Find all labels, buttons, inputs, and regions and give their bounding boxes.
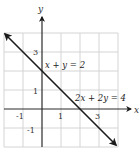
tick-y-1: 1 (33, 87, 38, 96)
x-axis-label: x (134, 105, 139, 115)
y-axis-label: y (37, 4, 44, 14)
tick-x-neg1: -1 (16, 112, 24, 121)
equation-label-1: x + y = 2 (45, 60, 85, 70)
line-x-plus-y-equals-2-lower (42, 71, 116, 145)
equation-label-2: 2x + 2y = 4 (74, 93, 126, 103)
tick-y-3: 3 (33, 48, 38, 57)
tick-x-3: 3 (95, 112, 100, 121)
tick-y-neg1: -1 (27, 126, 35, 135)
coordinate-plane: x y -1 1 3 3 1 -1 x + y = 2 2x + 2y = 4 (0, 0, 139, 156)
tick-x-1: 1 (58, 112, 63, 121)
